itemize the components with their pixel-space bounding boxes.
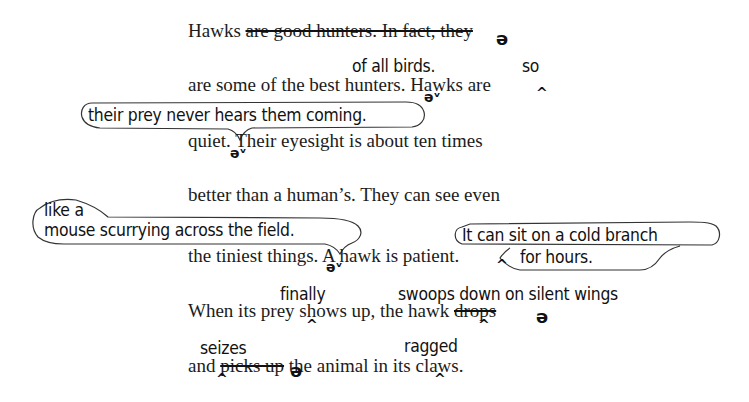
delete-mark-icon: ə bbox=[536, 308, 548, 326]
delete-mark-icon: ə bbox=[496, 30, 508, 48]
join-mark-icon: əᵛ bbox=[424, 90, 441, 104]
delete-mark-icon: ə bbox=[290, 362, 302, 380]
text-line-7: and picks up the animal in its claws. bbox=[188, 355, 463, 377]
text-line-2: are some of the best hunters. Hawks are bbox=[188, 74, 491, 96]
caret-icon: ^ bbox=[496, 258, 508, 272]
line-text: When its prey shows up, the hawk bbox=[188, 300, 454, 321]
struck-text: drops bbox=[454, 300, 496, 321]
insertion-so: so bbox=[522, 56, 539, 76]
insertion-their-prey: their prey never hears them coming. bbox=[88, 105, 367, 125]
line-text: are some of the best hunters. Hawks are bbox=[188, 74, 491, 95]
struck-text: are good hunters. In fact, they bbox=[246, 20, 473, 41]
caret-icon: ^ bbox=[478, 318, 490, 332]
text-line-6: When its prey shows up, the hawk drops bbox=[188, 300, 496, 322]
join-mark-icon: əᵛ bbox=[230, 146, 247, 160]
struck-text: picks up bbox=[220, 355, 284, 376]
text-line-5: the tiniest things. A hawk is patient. bbox=[188, 245, 459, 267]
insertion-cold-branch-2: for hours. bbox=[520, 247, 593, 267]
insertion-mouse: mouse scurrying across the field. bbox=[44, 220, 294, 240]
caret-icon: ^ bbox=[536, 86, 548, 100]
line-text: better than a human’s. They can see even bbox=[188, 184, 500, 205]
insertion-like-a: like a bbox=[44, 200, 84, 220]
caret-icon: ^ bbox=[434, 372, 446, 386]
join-mark-icon: əᵛ bbox=[326, 260, 343, 274]
line-text: Hawks bbox=[188, 20, 246, 41]
line-text: the tiniest things. A hawk is patient. bbox=[188, 245, 459, 266]
caret-icon: ^ bbox=[306, 318, 318, 332]
text-line-4: better than a human’s. They can see even bbox=[188, 184, 500, 206]
insertion-ragged: ragged bbox=[404, 336, 458, 356]
text-line-1: Hawks are good hunters. In fact, they bbox=[188, 20, 473, 42]
caret-icon: ^ bbox=[216, 372, 228, 386]
insertion-of-all-birds: of all birds. bbox=[352, 56, 435, 76]
insertion-cold-branch-1: It can sit on a cold branch bbox=[462, 225, 658, 245]
